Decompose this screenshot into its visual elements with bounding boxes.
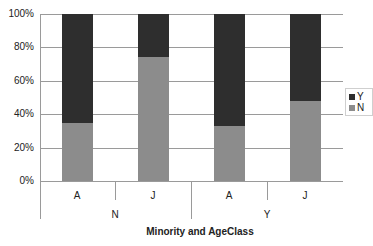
- legend-label: N: [357, 103, 364, 113]
- x-tick-divider: [267, 182, 268, 200]
- legend-swatch-y: [349, 94, 355, 100]
- legend-item-n: N: [349, 103, 364, 113]
- bar-segment-n: [290, 101, 321, 181]
- bar-segment-y: [138, 14, 169, 57]
- y-tick-60: 60%: [0, 76, 34, 86]
- x-category-label: A: [214, 190, 244, 201]
- y-tick-40: 40%: [0, 109, 34, 119]
- y-tick-80: 80%: [0, 42, 34, 52]
- y-tick-20: 20%: [0, 143, 34, 153]
- x-category-label: J: [290, 190, 320, 201]
- stacked-bar-chart: 100% 80% 60% 40% 20% 0% A J A J N Y Mino…: [0, 0, 373, 246]
- x-group-divider: [191, 182, 192, 219]
- y-axis-line: [40, 14, 41, 219]
- bar-segment-n: [138, 57, 169, 181]
- legend-label: Y: [357, 92, 364, 102]
- x-group-label: N: [100, 209, 130, 220]
- bar-segment-y: [62, 14, 93, 123]
- x-tick-divider: [115, 182, 116, 200]
- y-tick-0: 0%: [0, 176, 34, 186]
- bar-N-J: [138, 14, 169, 181]
- x-axis-title: Minority and AgeClass: [130, 226, 270, 237]
- bar-N-A: [62, 14, 93, 181]
- x-category-label: A: [62, 190, 92, 201]
- y-tick-100: 100%: [0, 9, 34, 19]
- bar-segment-n: [214, 126, 245, 181]
- bar-Y-J: [290, 14, 321, 181]
- bar-segment-y: [214, 14, 245, 126]
- legend-item-y: Y: [349, 92, 364, 102]
- bar-segment-y: [290, 14, 321, 101]
- bar-Y-A: [214, 14, 245, 181]
- x-group-label: Y: [252, 209, 282, 220]
- legend-swatch-n: [349, 105, 355, 111]
- legend: Y N: [345, 88, 373, 116]
- x-category-label: J: [138, 190, 168, 201]
- bar-segment-n: [62, 123, 93, 181]
